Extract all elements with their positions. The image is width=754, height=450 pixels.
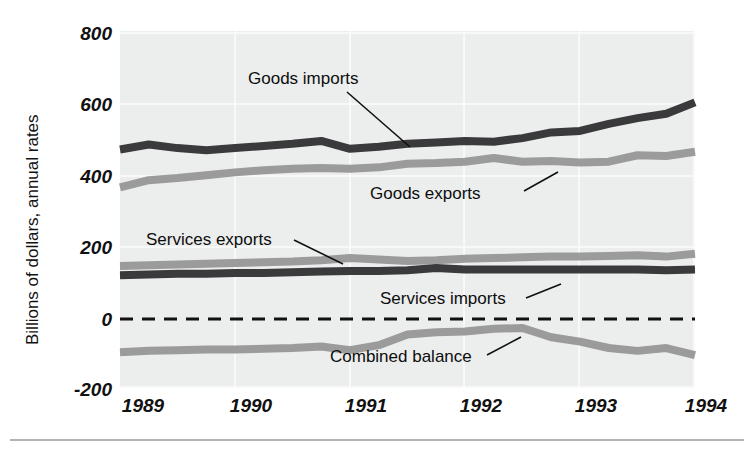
label-goods-exports: Goods exports — [370, 184, 481, 203]
y-tick-minus200: -200 — [74, 379, 112, 400]
label-goods-imports: Goods imports — [248, 69, 359, 88]
x-tick-1991: 1991 — [345, 395, 387, 416]
x-axis-tick-labels: 1989 1990 1991 1992 1993 1994 — [122, 395, 728, 416]
label-combined-balance: Combined balance — [330, 347, 472, 366]
y-axis-tick-labels: 800 600 400 200 0 -200 — [74, 23, 112, 400]
y-tick-200: 200 — [79, 237, 112, 258]
y-tick-0: 0 — [101, 309, 112, 330]
x-tick-1990: 1990 — [230, 395, 273, 416]
x-tick-1992: 1992 — [460, 395, 503, 416]
y-tick-400: 400 — [79, 166, 112, 187]
label-services-imports: Services imports — [380, 289, 506, 308]
y-axis-title: Billions of dollars, annual rates — [23, 114, 42, 345]
label-services-exports: Services exports — [146, 230, 272, 249]
chart-figure: Billions of dollars, annual rates 800 60… — [0, 0, 754, 450]
y-tick-800: 800 — [80, 23, 112, 44]
x-tick-1989: 1989 — [122, 395, 165, 416]
x-tick-1994: 1994 — [685, 395, 728, 416]
x-tick-1993: 1993 — [575, 395, 618, 416]
y-tick-600: 600 — [80, 94, 112, 115]
